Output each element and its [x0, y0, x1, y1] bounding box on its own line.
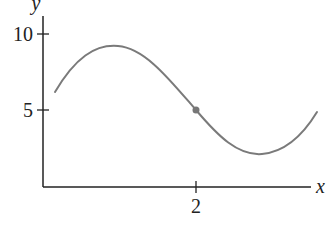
y-axis-label: y: [30, 0, 41, 15]
x-axis-label: x: [315, 175, 325, 197]
y-tick-label-5: 5: [23, 99, 33, 121]
x-tick-label-2: 2: [191, 195, 201, 217]
function-curve: [55, 46, 317, 154]
highlighted-point: [193, 107, 200, 114]
y-tick-label-10: 10: [13, 23, 33, 45]
function-graph: 10 5 2 y x: [0, 0, 331, 229]
